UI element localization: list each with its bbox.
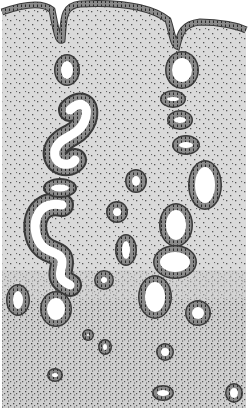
gland-small [152,385,174,401]
gland-oval [160,90,186,108]
gland-lobed [165,51,199,89]
gland-round [94,270,114,290]
gland-oval [172,135,200,155]
gland-oval [167,110,193,130]
gland-small-link [43,178,77,198]
gland-small [156,343,174,361]
gland-round [106,201,128,223]
basal-layer [2,270,246,408]
gland-oval [40,291,72,327]
gland-round [54,54,80,86]
gland-small [225,383,243,403]
gland-small [47,368,63,382]
gland-small [98,339,112,355]
gland-oval [153,245,197,279]
gland-oval [138,275,172,319]
tortuous-gland-upper [55,105,87,165]
endometrium-illustration [0,0,248,412]
gland-irregular [159,203,193,247]
gland-round [125,169,147,193]
gland-oval [6,284,30,316]
histology-figure [0,0,248,412]
gland-oval [115,234,137,266]
gland-irregular [188,160,222,210]
gland-small [82,329,94,341]
gland-round [185,300,211,326]
